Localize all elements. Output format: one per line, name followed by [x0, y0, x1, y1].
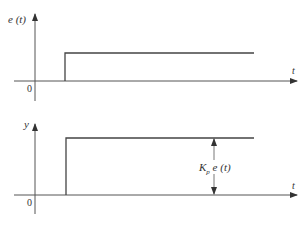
top-t-label: t — [292, 66, 295, 76]
bottom-t-label: t — [292, 181, 295, 191]
diagram: e (t) t 0 y t 0 Kp e (t) — [0, 0, 308, 227]
bottom-y-label: y — [24, 119, 29, 130]
top-plot — [14, 14, 297, 101]
bottom-origin-label: 0 — [27, 198, 32, 208]
kp-rest: e (t) — [213, 161, 231, 173]
kp-sub: p — [206, 168, 210, 176]
top-origin-label: 0 — [27, 84, 32, 94]
kp-annotation: Kp e (t) — [199, 162, 231, 176]
plots-canvas — [0, 0, 308, 227]
bottom-plot — [14, 124, 297, 214]
top-step-signal — [65, 53, 254, 81]
top-y-label: e (t) — [8, 14, 26, 25]
